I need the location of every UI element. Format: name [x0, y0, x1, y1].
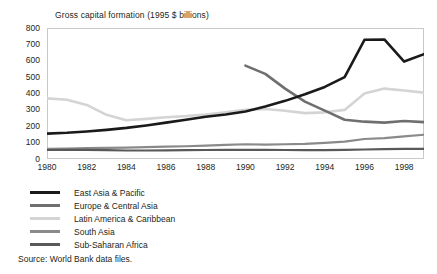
legend-item-south-asia[interactable]: South Asia — [30, 225, 175, 238]
legend-item-label: South Asia — [74, 227, 115, 237]
legend-swatch-icon — [30, 243, 60, 246]
x-axis-tick-1986: 1986 — [146, 163, 186, 172]
y-axis-tick-100: 100 — [10, 138, 40, 147]
x-axis-tick-1990: 1990 — [225, 163, 265, 172]
y-axis-tick-600: 600 — [10, 56, 40, 65]
legend-item-label: Sub-Saharan Africa — [74, 240, 148, 250]
y-axis-tick-200: 200 — [10, 122, 40, 131]
legend-item-label: East Asia & Pacific — [74, 188, 145, 198]
x-axis-tick-1988: 1988 — [186, 163, 226, 172]
legend-item-label: Latin America & Caribbean — [74, 214, 175, 224]
x-axis-tick-1982: 1982 — [67, 163, 107, 172]
y-axis-tick-400: 400 — [10, 89, 40, 98]
series-line-east-asia-pacific — [47, 39, 424, 133]
legend-item-label: Europe & Central Asia — [74, 201, 158, 211]
y-axis-tick-300: 300 — [10, 105, 40, 114]
series-line-south-asia — [47, 135, 424, 149]
x-axis-tick-1998: 1998 — [384, 163, 424, 172]
legend-swatch-icon — [30, 191, 60, 194]
chart-figure: Gross capital formation (1995 $ billions… — [0, 0, 437, 274]
legend-swatch-icon — [30, 217, 60, 220]
chart-plot-lines — [47, 28, 424, 159]
legend-swatch-icon — [30, 204, 60, 207]
legend-item-east-asia-pacific[interactable]: East Asia & Pacific — [30, 186, 175, 199]
x-axis-tick-1980: 1980 — [27, 163, 67, 172]
legend-item-europe-central-asia[interactable]: Europe & Central Asia — [30, 199, 175, 212]
x-axis-tick-1984: 1984 — [106, 163, 146, 172]
chart-legend: East Asia & PacificEurope & Central Asia… — [30, 186, 175, 251]
legend-swatch-icon — [30, 230, 60, 233]
x-axis-tick-1994: 1994 — [305, 163, 345, 172]
source-note: Source: World Bank data files. — [18, 254, 132, 264]
y-axis-tick-500: 500 — [10, 73, 40, 82]
legend-item-latin-america-caribbean[interactable]: Latin America & Caribbean — [30, 212, 175, 225]
chart-title: Gross capital formation (1995 $ billions… — [55, 10, 209, 20]
y-axis-tick-800: 800 — [10, 24, 40, 33]
x-axis-tick-1992: 1992 — [265, 163, 305, 172]
series-line-europe-central-asia — [245, 66, 424, 123]
legend-item-sub-saharan-africa[interactable]: Sub-Saharan Africa — [30, 238, 175, 251]
series-line-sub-saharan-africa — [47, 149, 424, 151]
y-axis-tick-700: 700 — [10, 40, 40, 49]
x-axis-tick-1996: 1996 — [344, 163, 384, 172]
series-line-latin-america-caribbean — [47, 89, 424, 121]
